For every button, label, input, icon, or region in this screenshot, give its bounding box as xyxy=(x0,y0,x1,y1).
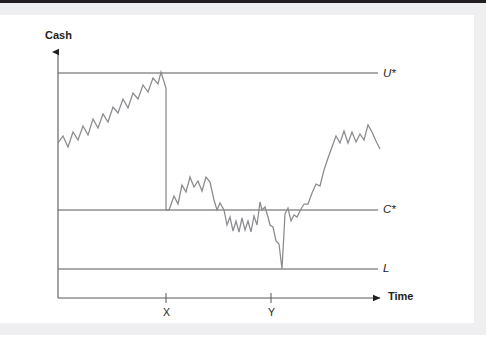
y-axis-label: Cash xyxy=(45,30,72,41)
upper-limit-label: U* xyxy=(383,68,396,80)
axes-group xyxy=(58,52,380,298)
figure-page: Cash Time U* C* L X Y xyxy=(0,0,486,343)
x-tick-label-x: X xyxy=(163,307,170,318)
return-point-label: C* xyxy=(383,204,396,216)
x-tick-label-y: Y xyxy=(268,307,275,318)
reference-lines-group xyxy=(58,73,378,269)
x-axis-label: Time xyxy=(388,291,413,302)
lower-limit-label: L xyxy=(383,263,389,275)
cash-balance-series xyxy=(58,72,380,269)
